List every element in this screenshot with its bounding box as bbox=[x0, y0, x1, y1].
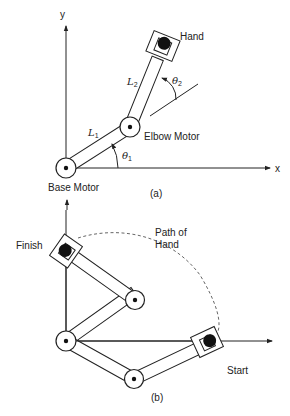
caption-b: (b) bbox=[151, 392, 163, 403]
lower-elbow-motor-b bbox=[125, 370, 144, 389]
link-2-label: L2 bbox=[126, 76, 138, 88]
theta1-arc bbox=[112, 144, 118, 168]
theta2-label: θ2 bbox=[172, 75, 182, 87]
elbow-motor-label: Elbow Motor bbox=[144, 131, 200, 142]
finish-label: Finish bbox=[16, 240, 43, 251]
figure-a: y x Hand E bbox=[48, 9, 280, 210]
robot-arm-diagram: y x Hand E bbox=[0, 0, 290, 416]
base-motor-label: Base Motor bbox=[48, 182, 100, 193]
path-label-line1: Path of bbox=[155, 227, 187, 238]
upper-elbow-motor-b bbox=[126, 291, 145, 310]
hand-gripper-a bbox=[146, 31, 180, 62]
hand-label: Hand bbox=[180, 31, 204, 42]
link-1-label: L1 bbox=[87, 127, 99, 139]
base-motor-a bbox=[56, 158, 76, 178]
y-axis-label: y bbox=[60, 9, 65, 20]
start-label: Start bbox=[227, 365, 248, 376]
theta1-label: θ1 bbox=[122, 150, 132, 162]
elbow-motor-a bbox=[120, 117, 140, 137]
base-motor-b bbox=[56, 331, 76, 351]
caption-a: (a) bbox=[150, 188, 162, 199]
path-label-line2: Hand bbox=[155, 239, 179, 250]
figure-b: Finish Start Path of Hand (b) bbox=[16, 210, 272, 403]
x-axis-label: x bbox=[275, 163, 280, 174]
